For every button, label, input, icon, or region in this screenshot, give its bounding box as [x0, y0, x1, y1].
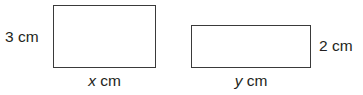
rectangle-a-height-label: 3 cm: [5, 29, 39, 45]
rectangle-a: [53, 5, 156, 68]
rectangle-a-width-unit: cm: [96, 72, 121, 89]
geometry-figure: 3 cm x cm 2 cm y cm: [0, 0, 363, 95]
rectangle-b: [191, 25, 311, 68]
rectangle-b-height-label: 2 cm: [319, 38, 353, 54]
rectangle-a-width-variable: x: [88, 72, 96, 89]
rectangle-b-width-unit: cm: [242, 72, 267, 89]
rectangle-b-width-label: y cm: [151, 73, 351, 89]
